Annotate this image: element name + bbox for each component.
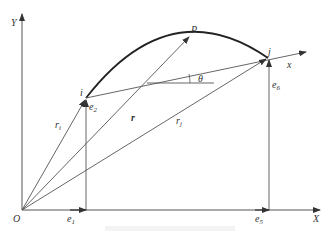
local-x-axis — [86, 52, 306, 98]
beam-element-diagram: Y X O i j P x θ r ri rj e2 e6 e1 e5 — [0, 0, 333, 237]
label-theta: θ — [198, 73, 203, 84]
label-i: i — [80, 87, 83, 98]
vector-r-j — [22, 59, 266, 210]
figure-caption-faint — [105, 226, 235, 231]
label-Y: Y — [11, 17, 18, 28]
label-r-i: ri — [55, 119, 61, 132]
label-r: r — [131, 112, 135, 123]
label-origin: O — [13, 213, 20, 224]
theta-arc — [189, 74, 190, 83]
element-curve — [86, 32, 268, 98]
label-j: j — [266, 46, 271, 57]
label-e2: e2 — [89, 101, 97, 114]
label-r-j: rj — [176, 115, 182, 128]
label-e5: e5 — [255, 213, 263, 226]
label-e1: e1 — [67, 213, 75, 226]
label-P: P — [190, 24, 197, 35]
label-e6: e6 — [272, 79, 280, 92]
label-local-x: x — [286, 59, 292, 70]
vector-r — [22, 37, 189, 210]
label-X: X — [312, 213, 320, 224]
